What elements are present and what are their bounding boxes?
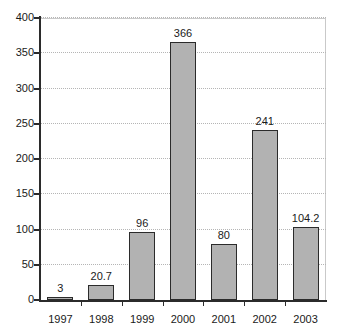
y-axis-tick-label: 50 xyxy=(22,259,34,270)
bar-value-label: 80 xyxy=(194,230,254,241)
y-axis-tick-label: 250 xyxy=(16,118,34,129)
y-axis-tick-label: 100 xyxy=(16,224,34,235)
bar xyxy=(129,232,155,300)
y-axis-tick-label: 350 xyxy=(16,47,34,58)
y-axis-tick-label: 0 xyxy=(28,294,34,305)
bar xyxy=(211,244,237,300)
y-axis-line xyxy=(39,16,41,302)
bar-value-label: 104.2 xyxy=(276,213,336,224)
bar xyxy=(88,285,114,300)
bar-value-label: 366 xyxy=(153,28,213,39)
x-axis-tick xyxy=(122,301,123,306)
bar xyxy=(252,130,278,300)
bar-value-label: 3 xyxy=(30,283,90,294)
bar-value-label: 20.7 xyxy=(71,271,131,282)
bar-chart: 050100150200250300350400 320.79636680241… xyxy=(0,0,342,336)
x-axis-tick xyxy=(244,301,245,306)
x-axis-tick xyxy=(285,301,286,306)
bar xyxy=(170,42,196,300)
bar xyxy=(47,297,73,300)
bar xyxy=(293,227,319,300)
x-axis-tick-label: 2003 xyxy=(276,313,336,325)
bar-value-label: 96 xyxy=(112,218,172,229)
y-axis-tick-label: 200 xyxy=(16,153,34,164)
x-axis-tick xyxy=(203,301,204,306)
x-axis-line xyxy=(39,300,327,302)
x-axis-tick xyxy=(81,301,82,306)
y-axis-tick-label: 150 xyxy=(16,188,34,199)
gridline xyxy=(41,17,326,19)
y-axis-tick-label: 400 xyxy=(16,12,34,23)
bar-value-label: 241 xyxy=(235,116,295,127)
x-axis-tick xyxy=(163,301,164,306)
y-axis-tick-label: 300 xyxy=(16,83,34,94)
